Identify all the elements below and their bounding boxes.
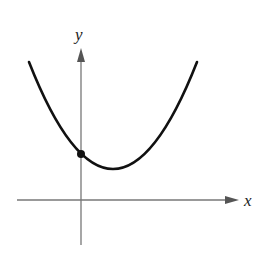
x-axis-arrow-icon: [225, 196, 239, 204]
parabola-figure: y x: [0, 0, 266, 266]
x-axis-label: x: [243, 191, 252, 210]
parabola-curve: [29, 62, 197, 169]
y-intercept-point: [77, 150, 85, 158]
y-axis-label: y: [73, 25, 83, 44]
y-axis-arrow-icon: [77, 48, 85, 62]
graph-canvas: y x: [0, 0, 266, 266]
